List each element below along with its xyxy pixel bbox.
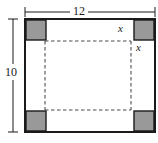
width-label: 12 xyxy=(70,5,88,17)
corner-square-bottom-left xyxy=(26,111,46,131)
diagram-canvas xyxy=(0,0,158,143)
corner-square-top-left xyxy=(26,20,46,40)
corner-square-bottom-right xyxy=(134,111,154,131)
height-label: 10 xyxy=(4,64,18,80)
corner-square-top-right xyxy=(134,20,154,40)
cut-side-label-top: x xyxy=(118,23,123,34)
width-dimension-line xyxy=(25,7,155,17)
geometry-figure: 12 10 x x xyxy=(0,0,158,143)
cut-side-label-right: x xyxy=(136,42,141,53)
